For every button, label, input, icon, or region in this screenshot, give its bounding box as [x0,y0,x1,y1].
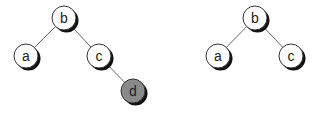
left-tree: bacd [14,6,148,106]
node-label: b [251,10,259,26]
node-a: a [14,44,41,71]
right-tree: bac [206,6,306,71]
node-d: d [121,79,148,106]
node-b: b [243,6,270,33]
node-c: c [87,44,114,71]
node-label: b [60,10,68,26]
node-c: c [279,44,306,71]
node-label: d [129,83,137,99]
node-label: a [214,48,222,64]
node-label: a [22,48,30,64]
node-a: a [206,44,233,71]
tree-diagram: bacd bac [0,0,325,114]
node-label: c [96,48,103,64]
node-b: b [52,6,79,33]
node-label: c [288,48,295,64]
